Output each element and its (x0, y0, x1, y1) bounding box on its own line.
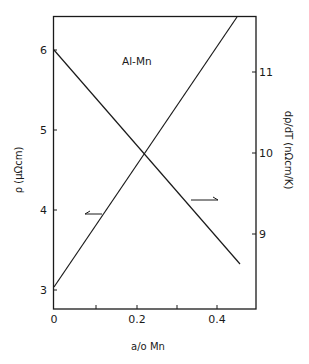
x-tick-0.2: 0.2 (128, 313, 146, 326)
x-axis-title: a/o Mn (131, 341, 165, 352)
left-tick-5: 5 (40, 124, 47, 137)
left-axis-title: ρ (μΩcm) (13, 147, 24, 194)
right-tick-11: 11 (259, 66, 273, 79)
x-tick-0.4: 0.4 (208, 313, 226, 326)
right-tick-10: 10 (259, 147, 273, 160)
left-pointing-arrow-icon (85, 211, 102, 214)
left-tick-4: 4 (40, 204, 47, 217)
left-tick-6: 6 (40, 44, 47, 57)
alloy-annotation: Al-Mn (122, 55, 152, 67)
right-pointing-arrow-icon (191, 197, 218, 200)
x-tick-0: 0 (51, 313, 58, 326)
plot-frame (54, 17, 257, 310)
right-axis-title: dρ/dT (nΩcm/K) (283, 111, 294, 190)
chart: 0 0.2 0.4 a/o Mn 3 4 5 6 ρ (μΩcm) 11 10 … (0, 0, 309, 364)
left-tick-3: 3 (40, 284, 47, 297)
right-tick-9: 9 (259, 228, 266, 241)
drho-dt-line (54, 50, 240, 264)
